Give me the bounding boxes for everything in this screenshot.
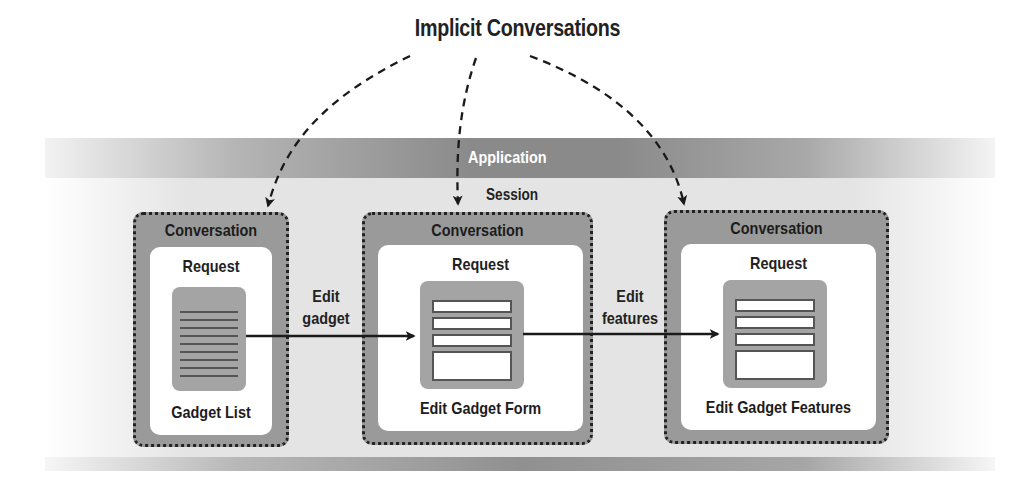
- implicit-arrow-1: [268, 56, 410, 206]
- implicit-arrow-2: [457, 58, 476, 204]
- implicit-arrow-3: [530, 56, 684, 204]
- connector-overlay: [0, 0, 1035, 489]
